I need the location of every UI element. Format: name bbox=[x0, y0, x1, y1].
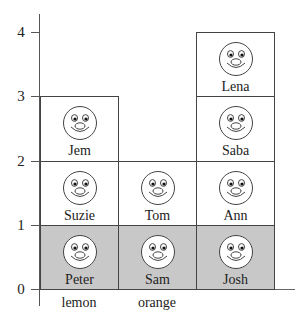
y-tick-label: 0 bbox=[14, 281, 28, 297]
person-name: Jem bbox=[68, 143, 91, 158]
person-cell: Sam bbox=[118, 225, 197, 290]
y-tick-label: 3 bbox=[14, 88, 28, 104]
person-name: Josh bbox=[223, 272, 248, 287]
person-cell: Josh bbox=[196, 225, 275, 290]
y-tick-3 bbox=[31, 96, 40, 97]
person-cell: Tom bbox=[118, 161, 197, 226]
person-cell: Ann bbox=[196, 161, 275, 226]
smiley-face-icon bbox=[62, 105, 98, 141]
person-cell: Lena bbox=[196, 32, 275, 97]
y-tick-2 bbox=[31, 161, 40, 162]
y-tick-1 bbox=[31, 225, 40, 226]
smiley-face-icon bbox=[140, 234, 176, 270]
x-category-label: lemon bbox=[40, 295, 118, 311]
person-cell: Saba bbox=[196, 96, 275, 162]
y-tick-label: 4 bbox=[14, 24, 28, 40]
person-name: Suzie bbox=[64, 208, 95, 223]
person-name: Sam bbox=[145, 272, 170, 287]
person-name: Tom bbox=[145, 208, 170, 223]
person-cell: Jem bbox=[40, 96, 119, 162]
smiley-face-icon bbox=[218, 41, 254, 77]
smiley-face-icon bbox=[140, 170, 176, 206]
person-name: Saba bbox=[222, 143, 249, 158]
smiley-face-icon bbox=[62, 170, 98, 206]
person-name: Ann bbox=[223, 208, 247, 223]
y-tick-label: 1 bbox=[14, 217, 28, 233]
person-cell: Peter bbox=[40, 225, 119, 290]
x-category-label: orange bbox=[118, 295, 196, 311]
smiley-face-icon bbox=[218, 170, 254, 206]
y-tick-label: 2 bbox=[14, 153, 28, 169]
y-tick-4 bbox=[31, 32, 40, 33]
smiley-face-icon bbox=[218, 105, 254, 141]
smiley-face-icon bbox=[62, 234, 98, 270]
person-cell: Suzie bbox=[40, 161, 119, 226]
person-name: Peter bbox=[65, 272, 94, 287]
y-tick-0 bbox=[31, 289, 40, 290]
smiley-face-icon bbox=[218, 234, 254, 270]
person-name: Lena bbox=[222, 79, 250, 94]
